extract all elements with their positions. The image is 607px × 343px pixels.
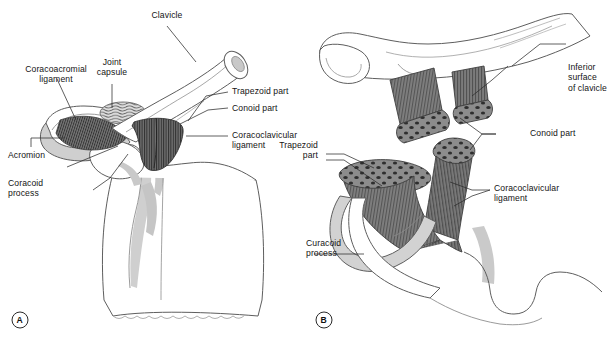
label-trapezoid-part: Trapezoid part bbox=[232, 86, 306, 96]
scapula-body bbox=[102, 172, 263, 316]
label-trapezoid-part-b: Trapezoid part bbox=[246, 140, 318, 161]
label-conoid-part-b: Conoid part bbox=[530, 128, 602, 138]
label-coracoid-process: Coracoid process bbox=[8, 178, 68, 199]
label-coracoclavicular-ligament-b: Coracoclavicular ligament bbox=[494, 183, 578, 204]
anatomical-figure: Clavicle Joint capsule Coracoacromial li… bbox=[0, 0, 607, 343]
panel-b-illustration bbox=[304, 0, 607, 343]
label-acromion: Acromion bbox=[8, 150, 70, 160]
panel-a-illustration bbox=[0, 0, 304, 343]
label-inferior-surface-of-clavicle: Inferior surface of clavicle bbox=[568, 62, 607, 93]
scapula-inferior-edge bbox=[113, 315, 245, 319]
panel-tag-b: B bbox=[316, 312, 331, 327]
panel-tag-a: A bbox=[12, 312, 27, 327]
label-coracoacromial-ligament: Coracoacromial ligament bbox=[6, 64, 106, 85]
label-clavicle: Clavicle bbox=[126, 10, 208, 20]
label-conoid-part: Conoid part bbox=[232, 103, 302, 113]
scapula-neck-shade bbox=[472, 226, 495, 284]
label-curacoid-process: Curacoid process bbox=[306, 238, 364, 259]
